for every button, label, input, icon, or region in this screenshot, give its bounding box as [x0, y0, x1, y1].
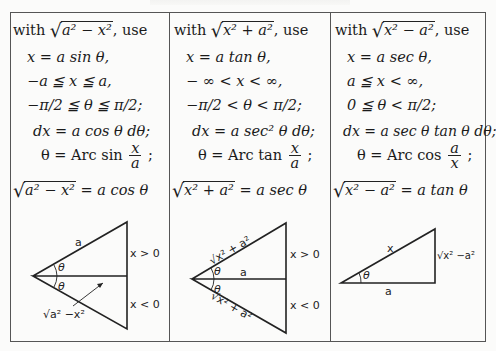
lower-side-label: x < 0	[130, 298, 160, 311]
trig-substitution-table: with √a² − x², use x = a sin θ, −a ≦ x ≦…	[10, 12, 486, 342]
lower-side-label: x < 0	[290, 299, 320, 312]
triangle-diagram: θ θ a x > 0 x < 0 √x² + a² √x² + a²	[170, 13, 331, 343]
angle-arc	[359, 273, 361, 283]
angle-label-upper: θ	[214, 265, 221, 278]
pointer-arrow	[73, 283, 103, 306]
right-triangle-diagram: θ x a √x² −a²	[331, 13, 487, 343]
angle-arc-upper	[54, 265, 57, 276]
triangle-lines	[341, 229, 435, 283]
hypotenuse-label-lower: √x² + a²	[209, 289, 255, 323]
angle-label-upper: θ	[58, 261, 65, 274]
angle-label-lower: θ	[58, 280, 65, 293]
column-sqrt-a2-minus-x2: with √a² − x², use x = a sin θ, −a ≦ x ≦…	[11, 13, 169, 341]
adjacent-label: √a² −x²	[43, 308, 85, 321]
triangle-diagram: a θ θ x > 0 x < 0 √a² −x²	[11, 13, 169, 343]
cropped-page-header	[150, 0, 350, 5]
column-sqrt-x2-minus-a2: with √x² − a², use x = a sec θ, a ≦ x < …	[330, 13, 487, 341]
angle-label: θ	[363, 269, 370, 282]
opposite-label: √x² −a²	[437, 250, 475, 261]
upper-side-label: x > 0	[290, 248, 320, 261]
hypotenuse-label: x	[387, 242, 394, 255]
hypotenuse-label-upper: √x² + a²	[207, 234, 253, 268]
angle-arc-lower	[54, 276, 57, 287]
upper-side-label: x > 0	[130, 247, 160, 260]
adjacent-label: a	[240, 266, 247, 279]
column-sqrt-x2-plus-a2: with √x² + a², use x = a tan θ, − ∞ < x …	[169, 13, 331, 341]
hypotenuse-label: a	[75, 236, 82, 249]
adjacent-label: a	[385, 285, 392, 298]
